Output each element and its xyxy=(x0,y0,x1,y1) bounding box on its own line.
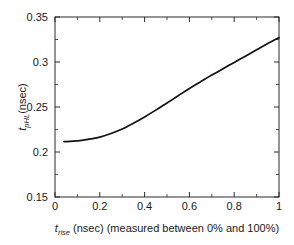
y-tick-label: 0.15 xyxy=(27,191,48,203)
y-tick-label: 0.25 xyxy=(27,101,48,113)
x-tick-label: 0 xyxy=(52,200,58,212)
x-tick-label: 0.4 xyxy=(137,200,152,212)
line-chart-svg: 00.20.40.60.81 0.150.20.250.30.35 trise … xyxy=(0,0,294,245)
y-tick-label: 0.35 xyxy=(27,11,48,23)
x-tick-label: 0.2 xyxy=(92,200,107,212)
x-tick-label: 0.6 xyxy=(182,200,197,212)
y-tick-label: 0.3 xyxy=(33,56,48,68)
chart-figure: 00.20.40.60.81 0.150.20.250.30.35 trise … xyxy=(0,0,294,245)
x-tick-label: 1 xyxy=(276,200,282,212)
x-tick-label: 0.8 xyxy=(227,200,242,212)
y-tick-label: 0.2 xyxy=(33,146,48,158)
